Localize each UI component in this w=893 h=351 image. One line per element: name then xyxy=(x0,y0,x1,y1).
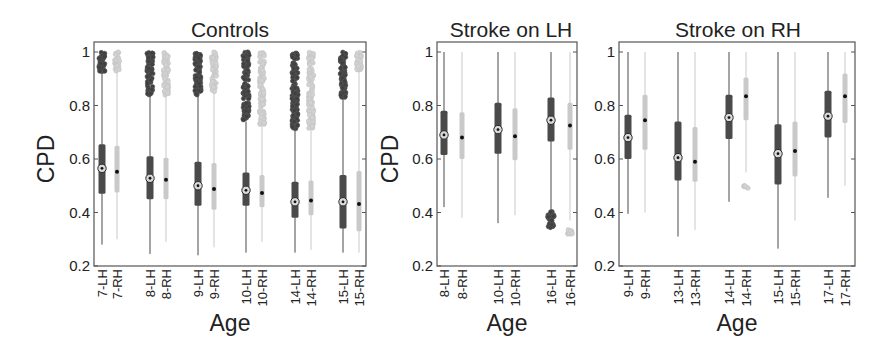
median-dot xyxy=(212,187,216,191)
outlier-point xyxy=(338,72,342,76)
box-iqr xyxy=(643,95,648,150)
y-tick-label: 0.2 xyxy=(594,257,615,274)
outlier-point xyxy=(246,89,250,93)
median-dot xyxy=(693,160,697,164)
x-tick-label: 16-RH xyxy=(563,269,578,307)
box-14-LH xyxy=(290,51,300,253)
box-iqr xyxy=(693,127,698,182)
x-axis-label: Age xyxy=(487,310,528,336)
box-iqr xyxy=(212,163,217,210)
panel-title: Stroke on RH xyxy=(675,18,801,41)
outlier-point xyxy=(340,76,344,80)
outlier-point xyxy=(258,83,262,87)
outlier-point xyxy=(193,61,197,65)
box-10-LH xyxy=(494,52,502,223)
outlier-point xyxy=(148,92,152,96)
outlier-point xyxy=(194,75,198,79)
outlier-point xyxy=(307,62,311,66)
outlier-point xyxy=(262,54,266,58)
outlier-cluster xyxy=(241,50,251,122)
x-axis-label: Age xyxy=(717,310,758,336)
x-tick-label: 15-LH xyxy=(336,269,351,304)
outlier-point xyxy=(261,102,265,106)
y-tick-label: 0.6 xyxy=(69,150,90,167)
outlier-cluster xyxy=(193,51,203,97)
x-tick-label: 9-LH xyxy=(191,269,206,297)
box-16-LH xyxy=(546,52,556,230)
median-dot xyxy=(643,118,647,122)
median-dot xyxy=(115,170,119,174)
outlier-point xyxy=(242,55,246,59)
x-tick-label: 8-LH xyxy=(437,269,452,297)
box-9-LH xyxy=(193,51,203,255)
outlier-point xyxy=(570,231,574,235)
outlier-point xyxy=(212,89,216,93)
outlier-point xyxy=(551,214,555,218)
y-axis-label: CPD xyxy=(33,135,59,184)
outlier-point xyxy=(145,74,149,78)
box-9-LH xyxy=(624,52,632,214)
box-15-RH xyxy=(354,50,363,252)
outlier-point xyxy=(546,214,550,218)
outlier-point xyxy=(148,78,152,82)
outlier-point xyxy=(197,81,201,85)
outlier-point xyxy=(244,114,248,118)
outlier-cluster xyxy=(306,50,315,130)
outlier-point xyxy=(197,65,201,69)
outlier-cluster xyxy=(112,50,121,73)
median-dot xyxy=(744,94,748,98)
box-15-LH xyxy=(338,50,348,253)
box-iqr xyxy=(744,77,749,120)
panel-title: Stroke on LH xyxy=(450,18,573,41)
box-10-RH xyxy=(513,52,518,215)
box-iqr xyxy=(843,73,848,122)
outlier-point xyxy=(210,67,214,71)
y-tick-label: 1 xyxy=(82,43,90,60)
outlier-point xyxy=(291,71,295,75)
y-axis-label: CPD xyxy=(377,135,403,184)
box-10-LH xyxy=(241,50,251,253)
outlier-point xyxy=(260,68,264,72)
median-dot xyxy=(627,136,630,139)
outlier-point xyxy=(295,123,299,127)
outlier-point xyxy=(145,51,149,55)
outlier-point xyxy=(165,91,169,95)
outlier-point xyxy=(146,56,150,60)
outlier-point xyxy=(244,72,248,76)
x-tick-label: 14-LH xyxy=(722,269,737,304)
outlier-point xyxy=(290,124,294,128)
x-tick-label: 17-LH xyxy=(821,269,836,304)
outlier-point xyxy=(161,68,165,72)
x-tick-label: 14-RH xyxy=(304,269,319,307)
y-tick-label: 0.4 xyxy=(412,204,433,221)
box-15-LH xyxy=(774,52,782,249)
outlier-point xyxy=(165,85,169,89)
outlier-point xyxy=(211,80,215,84)
median-dot xyxy=(164,178,168,182)
outlier-point xyxy=(115,63,119,67)
median-dot xyxy=(728,116,731,119)
box-14-LH xyxy=(725,52,733,202)
box-14-RH xyxy=(741,52,750,190)
outlier-point xyxy=(307,50,311,54)
outlier-point xyxy=(743,184,747,188)
y-tick-label: 1 xyxy=(425,43,433,60)
outlier-point xyxy=(295,96,299,100)
box-17-LH xyxy=(824,52,832,198)
outlier-cluster xyxy=(741,184,750,191)
median-dot xyxy=(357,202,361,206)
y-tick-label: 0.6 xyxy=(594,150,615,167)
outlier-point xyxy=(193,89,197,93)
outlier-point xyxy=(164,62,168,66)
axes-frame xyxy=(94,42,366,266)
x-tick-label: 7-LH xyxy=(95,269,110,297)
outlier-point xyxy=(310,124,314,128)
outlier-cluster xyxy=(290,51,300,131)
outlier-point xyxy=(97,69,101,73)
outlier-point xyxy=(339,93,343,97)
outlier-point xyxy=(310,115,314,119)
outlier-point xyxy=(260,97,264,101)
panel-title: Controls xyxy=(191,18,269,41)
outlier-point xyxy=(307,83,311,87)
median-dot xyxy=(677,156,680,159)
